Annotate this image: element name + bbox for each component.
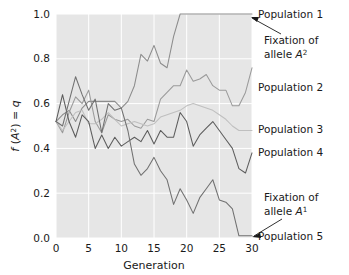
annotation-fixation-a2-line1: Fixation of <box>264 34 319 46</box>
x-tick-label: 30 <box>245 242 258 254</box>
y-tick-label: 0.8 <box>33 52 50 64</box>
y-tick-label: 0.4 <box>33 142 50 154</box>
y-tick-label: 1.0 <box>33 8 50 20</box>
series-label-population-5: Population 5 <box>258 230 323 242</box>
chart-figure: 0.00.20.40.60.81.0 051015202530 f (A2) =… <box>0 0 349 275</box>
annotation-a1-prefix: allele <box>264 205 295 217</box>
annotation-a1-superscript: 1 <box>303 205 308 214</box>
x-axis-title: Generation <box>123 259 184 272</box>
x-axis-tick-labels: 051015202530 <box>53 242 259 254</box>
x-tick-label: 0 <box>53 242 60 254</box>
y-axis-q: q <box>9 100 22 107</box>
x-tick-label: 10 <box>115 242 128 254</box>
y-tick-label: 0.6 <box>33 97 50 109</box>
annotation-a1-allele: A <box>294 205 302 217</box>
annotation-a2-allele: A <box>294 48 302 60</box>
svg-text:f (A2) = q: f (A2) = q <box>9 100 22 151</box>
y-axis-open: ( <box>9 140 22 148</box>
y-tick-label: 0.2 <box>33 187 50 199</box>
x-tick-label: 15 <box>147 242 160 254</box>
y-axis-title: f (A2) = q <box>9 100 22 151</box>
x-tick-label: 20 <box>180 242 193 254</box>
y-tick-label: 0.0 <box>33 232 50 244</box>
y-axis-close: ) = <box>9 107 22 128</box>
series-label-population-1: Population 1 <box>258 8 323 20</box>
x-tick-label: 5 <box>85 242 92 254</box>
series-label-population-2: Population 2 <box>258 81 323 93</box>
annotation-fixation-a2-line2: allele A2 <box>264 48 307 60</box>
y-axis-allele: A <box>9 132 22 141</box>
annotation-fixation-a1-line2: allele A1 <box>264 205 307 217</box>
annotation-a2-prefix: allele <box>264 48 295 60</box>
y-axis-tick-labels: 0.00.20.40.60.81.0 <box>33 8 50 244</box>
series-label-population-4: Population 4 <box>258 146 324 158</box>
annotation-fixation-a1-line1: Fixation of <box>264 191 319 203</box>
annotation-a2-superscript: 2 <box>303 48 308 57</box>
genetic-drift-line-chart: 0.00.20.40.60.81.0 051015202530 f (A2) =… <box>0 0 349 275</box>
series-label-population-3: Population 3 <box>258 123 323 135</box>
x-tick-label: 25 <box>213 242 226 254</box>
